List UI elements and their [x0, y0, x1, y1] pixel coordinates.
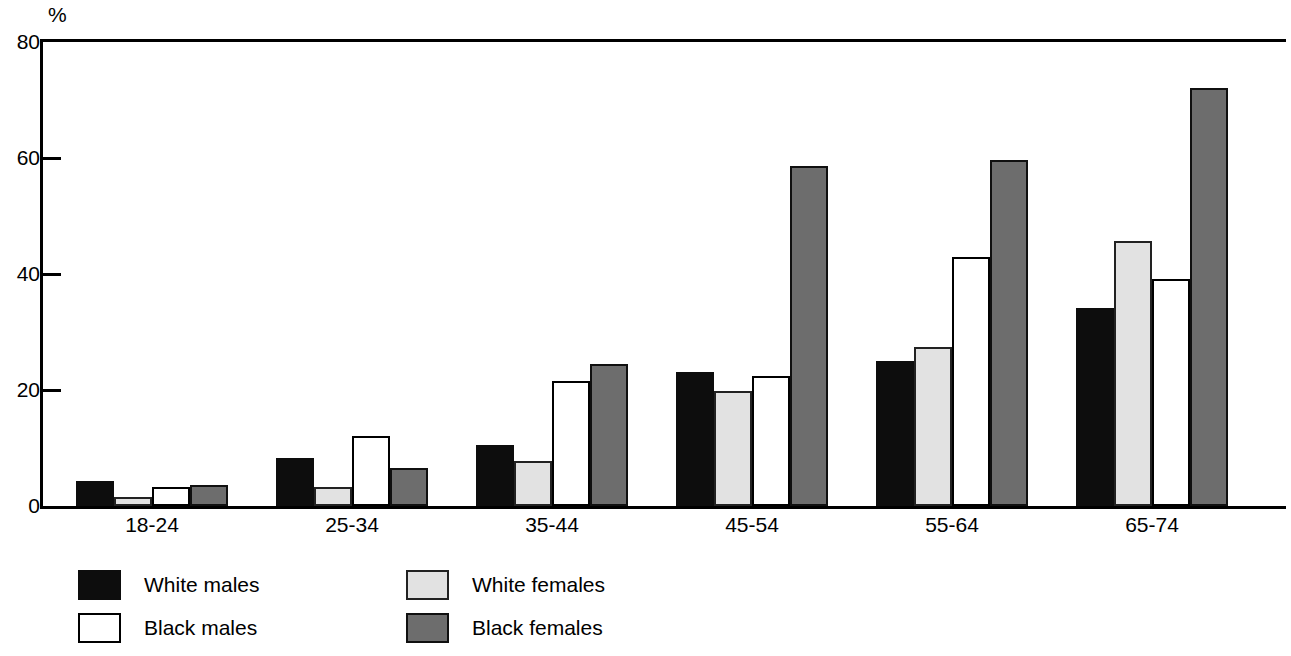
- legend-label: White females: [472, 572, 605, 598]
- y-axis-tick-label: 80: [17, 31, 40, 52]
- bar: [1190, 88, 1228, 506]
- bar: [876, 361, 914, 506]
- bar: [190, 485, 228, 506]
- bar: [590, 364, 628, 506]
- x-axis-group-label: 65-74: [1082, 514, 1222, 536]
- legend-label: White males: [144, 572, 260, 598]
- bar: [514, 461, 552, 506]
- bar: [676, 372, 714, 506]
- bar: [914, 347, 952, 506]
- y-axis-tick-label: 0: [28, 495, 40, 516]
- y-axis-tick-label: 40: [17, 263, 40, 284]
- bar: [752, 376, 790, 507]
- x-axis-group-label: 18-24: [82, 514, 222, 536]
- bar: [552, 381, 590, 506]
- chart-legend: White malesBlack malesWhite femalesBlack…: [0, 565, 1291, 655]
- legend-swatch-icon: [78, 613, 121, 643]
- x-axis-group-label: 45-54: [682, 514, 822, 536]
- y-axis-tick-label: 60: [17, 147, 40, 168]
- bar: [1076, 308, 1114, 506]
- bar-chart-figure: % 020406080 18-2425-3435-4445-5455-6465-…: [0, 0, 1291, 656]
- x-axis-group-label: 25-34: [282, 514, 422, 536]
- bar: [1114, 241, 1152, 506]
- bar: [790, 166, 828, 506]
- bar: [352, 436, 390, 506]
- bar: [152, 487, 190, 506]
- bar: [990, 160, 1028, 506]
- legend-swatch-icon: [406, 613, 449, 643]
- y-axis-tick-label: 20: [17, 379, 40, 400]
- bar: [390, 468, 428, 506]
- bar: [114, 497, 152, 506]
- bar: [952, 257, 990, 506]
- legend-swatch-icon: [406, 570, 449, 600]
- plot-area: [43, 42, 1286, 506]
- bar: [476, 445, 514, 506]
- y-axis-unit-label: %: [48, 4, 67, 26]
- bar: [76, 481, 114, 506]
- bar: [714, 391, 752, 506]
- bar: [314, 487, 352, 506]
- legend-swatch-icon: [78, 570, 121, 600]
- x-axis-group-label: 35-44: [482, 514, 622, 536]
- legend-label: Black females: [472, 615, 603, 641]
- x-axis-group-label: 55-64: [882, 514, 1022, 536]
- bar: [276, 458, 314, 506]
- legend-label: Black males: [144, 615, 257, 641]
- bar: [1152, 279, 1190, 506]
